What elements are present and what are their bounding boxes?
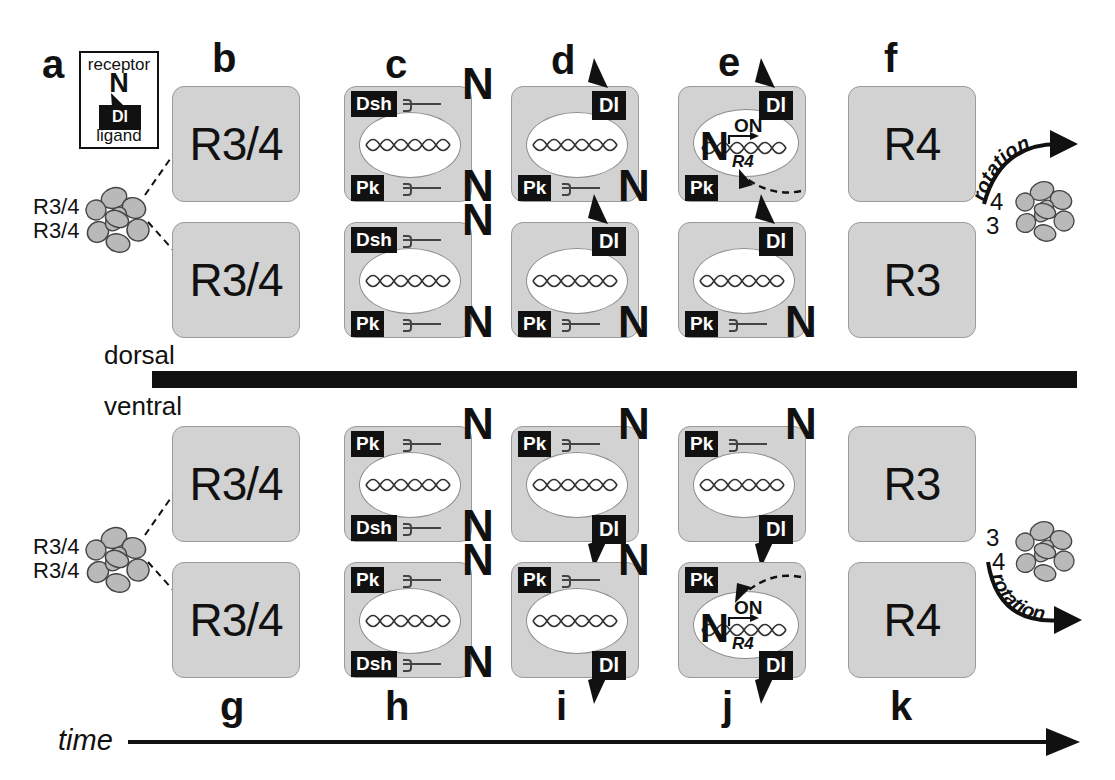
connector-cap — [729, 319, 738, 332]
rotation-number-dorsal-2: 3 — [986, 212, 999, 240]
cell-label: R3/4 — [189, 253, 282, 307]
tag-dl: Dl — [759, 91, 793, 120]
tag-pk: Pk — [351, 431, 384, 457]
ligand-arrowhead-d-top — [580, 58, 620, 92]
cell-k-bottom[interactable]: R4 — [848, 562, 976, 678]
dna-helix-icon — [527, 453, 627, 517]
dna-helix-icon — [360, 589, 460, 653]
gene-label-r4: R4 — [732, 634, 754, 654]
cell-f-bottom[interactable]: R3 — [848, 222, 976, 338]
receptor-n-j-top: N — [785, 402, 817, 446]
tag-dsh: Dsh — [351, 515, 397, 541]
tag-dl: Dl — [592, 227, 626, 256]
ommatidium-dorsal-label-2: R3/4 — [33, 218, 79, 244]
cell-label: R4 — [884, 117, 941, 171]
panel-letter-a: a — [42, 44, 64, 84]
cell-b-bottom[interactable]: R3/4 — [172, 222, 300, 338]
panel-letter-j: j — [722, 686, 733, 726]
panel-letter-h: h — [385, 686, 409, 726]
panel-letter-c: c — [385, 44, 407, 84]
tag-dsh: Dsh — [351, 651, 397, 677]
cell-g-top[interactable]: R3/4 — [172, 426, 300, 542]
cell-label: R3/4 — [189, 457, 282, 511]
connector-cap — [403, 439, 412, 452]
tag-pk: Pk — [518, 311, 551, 337]
connector-cap — [562, 319, 571, 332]
nucleus — [359, 588, 461, 654]
nucleus — [526, 248, 628, 314]
connector-cap — [403, 319, 412, 332]
nucleus — [693, 248, 795, 314]
nucleus — [526, 588, 628, 654]
nucleus — [359, 452, 461, 518]
panel-letter-b: b — [212, 38, 236, 78]
connector-cap — [403, 235, 412, 248]
panel-letter-f: f — [884, 38, 897, 78]
receptor-n-h-bottom-lower: N — [462, 640, 494, 684]
ommatidium-ventral-label-2: R3/4 — [33, 558, 79, 584]
connector-cap — [403, 183, 412, 196]
receptor-n-i-top: N — [618, 402, 650, 446]
cell-e-top-active[interactable]: N ON R4 Dl Pk — [678, 86, 806, 202]
tag-pk: Pk — [518, 175, 551, 201]
receptor-n-e-bottom: N — [785, 300, 817, 344]
cell-k-top[interactable]: R3 — [848, 426, 976, 542]
panel-letter-g: g — [220, 686, 244, 726]
tag-pk: Pk — [351, 175, 384, 201]
ommatidium-ventral-label-1: R3/4 — [33, 534, 79, 560]
cell-label: R3/4 — [189, 593, 282, 647]
tag-dsh: Dsh — [351, 91, 397, 117]
connector-cap — [403, 99, 412, 112]
dna-helix-icon — [360, 453, 460, 517]
cell-h-top[interactable]: Pk Dsh — [344, 426, 472, 542]
cell-h-bottom[interactable]: Pk Dsh — [344, 562, 472, 678]
cell-label: R3 — [884, 253, 941, 307]
nucleus — [359, 112, 461, 178]
ventral-label: ventral — [104, 391, 182, 422]
nucleus — [526, 112, 628, 178]
dna-helix-icon — [527, 589, 627, 653]
connector-cap — [562, 575, 571, 588]
nucleus — [693, 452, 795, 518]
panel-letter-k: k — [890, 686, 912, 726]
cell-b-top[interactable]: R3/4 — [172, 86, 300, 202]
tag-dl: Dl — [759, 227, 793, 256]
signal-feedback-arrow — [709, 567, 809, 619]
dna-helix-icon — [694, 249, 794, 313]
ommatidium-dorsal-rotated-icon — [1014, 180, 1076, 244]
tag-pk: Pk — [351, 311, 384, 337]
tag-pk: Pk — [518, 567, 551, 593]
rotation-number-ventral-2: 4 — [992, 548, 1005, 576]
receptor-n-d-top: N — [618, 164, 650, 208]
nucleus — [359, 248, 461, 314]
dna-helix-icon — [527, 113, 627, 177]
cell-c-bottom[interactable]: Dsh Pk — [344, 222, 472, 338]
cell-c-top[interactable]: Dsh Pk — [344, 86, 472, 202]
tag-pk: Pk — [685, 431, 718, 457]
nucleus — [526, 452, 628, 518]
tag-pk: Pk — [518, 431, 551, 457]
ommatidium-dorsal-label-1: R3/4 — [33, 194, 79, 220]
cell-f-top[interactable]: R4 — [848, 86, 976, 202]
cell-j-bottom-active[interactable]: N ON R4 Pk Dl — [678, 562, 806, 678]
cell-g-bottom[interactable]: R3/4 — [172, 562, 300, 678]
receptor-n-c-top-upper: N — [462, 62, 494, 106]
connector-cap — [729, 439, 738, 452]
ligand-arrowhead-i-bottom — [580, 672, 620, 706]
dorsal-label: dorsal — [104, 340, 175, 371]
panel-letter-e: e — [718, 42, 740, 82]
ligand-arrowhead-e-bottom — [747, 194, 787, 228]
receptor-n-h-top-upper: N — [462, 402, 494, 446]
receptor-n-c-bottom-lower: N — [462, 300, 494, 344]
dna-helix-icon — [360, 113, 460, 177]
time-axis-label: time — [58, 724, 113, 757]
dna-helix-icon — [360, 249, 460, 313]
tag-dsh: Dsh — [351, 227, 397, 253]
cell-label: R4 — [884, 593, 941, 647]
connector-cap — [403, 575, 412, 588]
cell-label: R3 — [884, 457, 941, 511]
connector-cap — [403, 523, 412, 536]
tag-dl: Dl — [592, 91, 626, 120]
ommatidium-ventral-rotated-icon — [1014, 520, 1076, 584]
tag-pk: Pk — [685, 311, 718, 337]
